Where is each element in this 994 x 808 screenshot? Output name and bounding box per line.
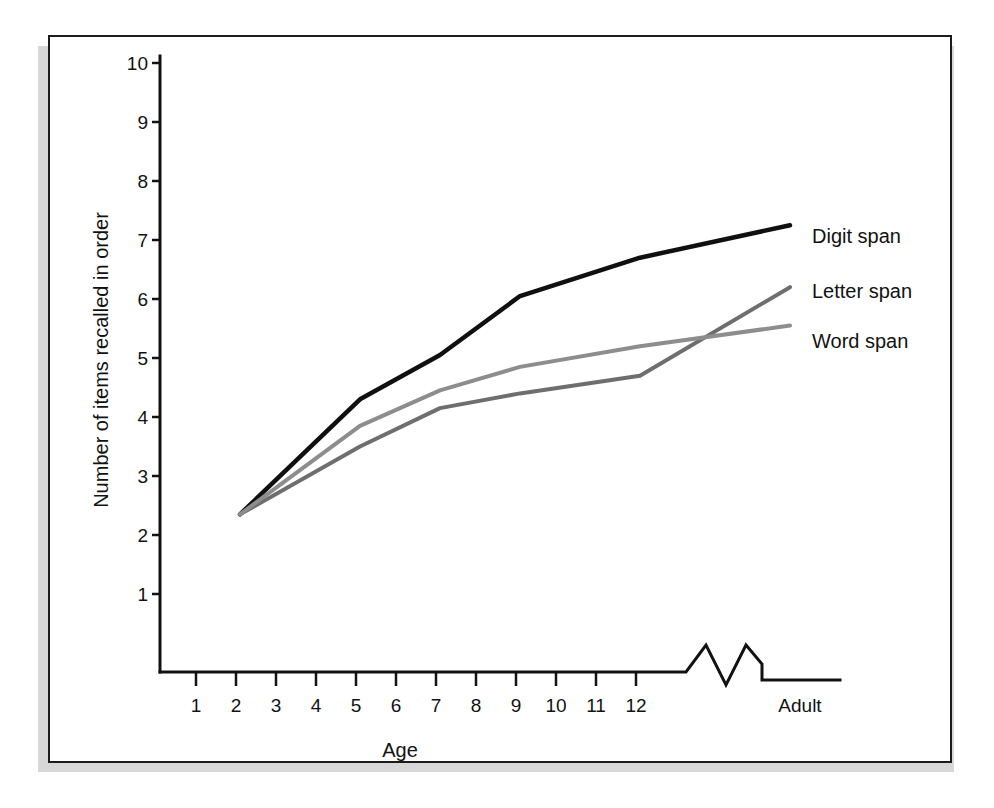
figure-root: Number of items recalled in order 10 9 8… — [0, 0, 994, 808]
figure-frame-border — [48, 35, 952, 763]
